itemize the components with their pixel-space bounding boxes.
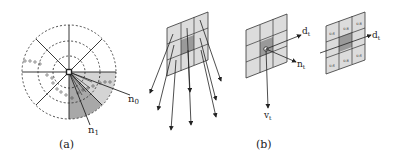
cell-value: 0.8: [343, 27, 349, 31]
caption-b: (b): [256, 138, 272, 151]
cell-value: 0.8: [343, 59, 349, 63]
label-d2: dt: [372, 30, 381, 41]
grid-single-sample: [246, 14, 301, 108]
label-d: dt: [302, 26, 311, 37]
grid-many-arrows: [150, 12, 221, 130]
center-marker: [67, 70, 72, 75]
label-n: nt: [297, 59, 306, 70]
label-v: vt: [263, 110, 272, 121]
caption-a: (a): [59, 138, 74, 151]
cell-value: 0.8: [356, 22, 362, 26]
figure-canvas: n0 n1 dt nt: [0, 0, 396, 158]
label-n1: n1: [88, 124, 99, 137]
cell-value: 0.6: [329, 64, 335, 68]
grid-weighted: 0.6 0.8 0.8 0.6 0.8 0.6: [320, 12, 371, 74]
label-n0: n0: [128, 93, 139, 106]
cell-value: 0.6: [329, 32, 335, 36]
polar-histogram: [22, 25, 130, 125]
cell-value: 0.6: [356, 54, 362, 58]
